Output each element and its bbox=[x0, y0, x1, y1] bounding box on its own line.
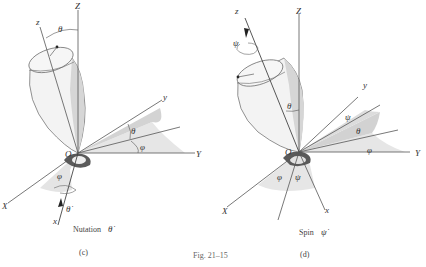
origin-label: O bbox=[65, 149, 72, 159]
X-axis-label: X bbox=[1, 201, 8, 211]
x-axis-label: x bbox=[52, 216, 57, 226]
psi-dot-arrowhead bbox=[244, 28, 249, 38]
theta-mid-label: θ bbox=[287, 101, 292, 111]
psi-top-label: ψ bbox=[233, 38, 239, 48]
theta-top-label: θ bbox=[58, 24, 63, 34]
X-axis-label: X bbox=[221, 206, 228, 216]
phi-right-label: φ bbox=[367, 145, 372, 155]
panel-d-label: (d) bbox=[300, 250, 310, 259]
Z-axis-label: Z bbox=[75, 1, 81, 11]
psi-right-label: ψ bbox=[345, 112, 351, 122]
theta-dot-label: θ̇ bbox=[66, 204, 73, 214]
spin-rotation-arrow bbox=[237, 43, 258, 54]
panel-c-label: (c) bbox=[79, 248, 88, 257]
Z-axis-label: Z bbox=[296, 6, 302, 16]
Y-axis-label: Y bbox=[415, 148, 421, 158]
theta-right-label: θ bbox=[131, 126, 136, 136]
z-axis-label: z bbox=[35, 17, 40, 27]
euler-angles-diagram: Z z θ y θ φ Y O φ X θ̇ x Nutation θ̇ (c) bbox=[0, 0, 426, 267]
psi-bottom-label: ψ bbox=[295, 172, 301, 182]
origin-label: O bbox=[285, 147, 292, 157]
Y-axis-label: Y bbox=[196, 149, 202, 159]
panel-d-title: Spin bbox=[299, 228, 314, 237]
panel-c-rate: θ̇ bbox=[108, 224, 115, 234]
y-axis-label: y bbox=[162, 92, 167, 102]
phi-bottom-label: φ bbox=[57, 171, 62, 181]
panel-d: Z z ψ θ y ψ θ φ Y O φ ψ X x Spin ψ̇ (d) bbox=[221, 6, 421, 259]
z-axis-label: z bbox=[234, 6, 239, 16]
phi-right-label: φ bbox=[140, 142, 145, 152]
panel-c: Z z θ y θ φ Y O φ X θ̇ x Nutation θ̇ (c) bbox=[1, 1, 202, 257]
y-axis-label: y bbox=[362, 80, 367, 90]
panel-d-rate: ψ̇ bbox=[321, 227, 330, 237]
figure-caption: Fig. 21–15 bbox=[193, 251, 228, 260]
panel-c-title: Nutation bbox=[73, 225, 101, 234]
x-axis-label: x bbox=[324, 205, 329, 215]
theta-right-label: θ bbox=[356, 126, 361, 136]
theta-dot-arrowhead bbox=[58, 198, 63, 207]
phi-bottom-label: φ bbox=[277, 172, 282, 182]
